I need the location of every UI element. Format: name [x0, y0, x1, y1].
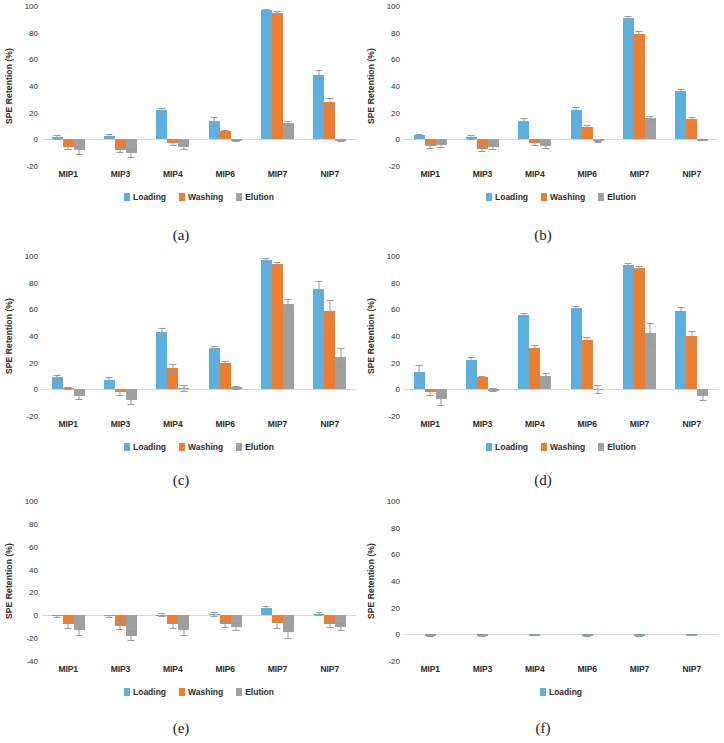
error-bar-cap [636, 270, 643, 271]
bar-slot [115, 256, 126, 416]
y-axis-tick-label: 20 [29, 108, 38, 117]
legend-item-washing[interactable]: Washing [179, 192, 223, 202]
bar-slot [209, 6, 220, 166]
error-bar-cap [274, 628, 281, 629]
bar-washing [324, 102, 335, 139]
y-axis-tick-label: 60 [29, 55, 38, 64]
legend-item-elution[interactable]: Elution [236, 192, 274, 202]
bar-group [613, 6, 665, 166]
bar-set [147, 501, 199, 661]
bar-slot [115, 501, 126, 661]
legend-item-elution[interactable]: Elution [236, 687, 274, 697]
error-bar-cap [326, 300, 333, 301]
error-bar-cap [158, 613, 165, 614]
y-axis-tick-label: 80 [29, 28, 38, 37]
error-bar-cap [128, 640, 135, 641]
bar-slot [634, 256, 645, 416]
error-bar-cap [222, 365, 229, 366]
y-axis-tick-label: -20 [26, 412, 38, 421]
error-bar-cap [573, 310, 580, 311]
bar-loading [209, 348, 220, 389]
error-bar-cap [625, 263, 632, 264]
bar-group [94, 256, 146, 416]
y-axis-label-text: SPE Retention (%) [4, 48, 14, 124]
bar-slot [425, 501, 436, 661]
x-axis-tick-label: MIP7 [613, 169, 665, 179]
error-bar-cap [117, 389, 124, 390]
x-axis-tick-label: NIP7 [304, 169, 356, 179]
error-bar-cap [285, 627, 292, 628]
legend-item-loading[interactable]: Loading [124, 442, 166, 452]
bar-slot [540, 256, 551, 416]
error-bar [340, 623, 341, 630]
legend-swatch-icon [179, 688, 185, 696]
legend-item-loading[interactable]: Loading [124, 687, 166, 697]
y-axis-tick-label: 80 [29, 278, 38, 287]
bar-elution [283, 304, 294, 389]
error-bar-cap [233, 630, 240, 631]
error-bar-cap [490, 391, 497, 392]
bar-slot [518, 6, 529, 166]
error-bar-cap [117, 152, 124, 153]
error-bar-cap [315, 281, 322, 282]
error-bar-cap [263, 606, 270, 607]
bar-set [509, 6, 561, 166]
error-bar [691, 331, 692, 342]
error-bar-cap [274, 262, 281, 263]
chart-legend: LoadingWashingElution [404, 192, 718, 202]
legend-item-elution[interactable]: Elution [236, 442, 274, 452]
bar-slot [52, 6, 63, 166]
error-bar-cap [233, 623, 240, 624]
legend-label: Washing [188, 192, 223, 202]
legend-item-loading[interactable]: Loading [486, 192, 528, 202]
error-bar-cap [584, 129, 591, 130]
error-bar-cap [106, 617, 113, 618]
panel-caption-a: (a) [0, 227, 362, 244]
legend-item-loading[interactable]: Loading [124, 192, 166, 202]
error-bar-cap [337, 141, 344, 142]
bar-slot [582, 501, 593, 661]
bar-slot [697, 6, 708, 166]
bar-slot [518, 256, 529, 416]
y-axis-tick-label: 20 [391, 603, 400, 612]
legend-item-washing[interactable]: Washing [179, 687, 223, 697]
error-bar-cap [106, 615, 113, 616]
y-axis-label-text: SPE Retention (%) [4, 298, 14, 374]
error-bar-cap [180, 391, 187, 392]
bar-set [251, 6, 303, 166]
bar-groups [404, 6, 718, 166]
bar-slot [261, 256, 272, 416]
bar-group [404, 6, 456, 166]
legend-swatch-icon [486, 443, 492, 451]
legend-item-washing[interactable]: Washing [179, 442, 223, 452]
bar-washing [272, 13, 283, 140]
bar-slot [313, 6, 324, 166]
bar-group [199, 256, 251, 416]
legend-item-elution[interactable]: Elution [598, 442, 636, 452]
bar-slot [126, 6, 137, 166]
legend-item-elution[interactable]: Elution [598, 192, 636, 202]
bar-slot [675, 256, 686, 416]
bar-group [456, 256, 508, 416]
legend-item-washing[interactable]: Washing [541, 192, 585, 202]
bar-slot [231, 256, 242, 416]
error-bar-cap [677, 93, 684, 94]
x-axis-tick-label: MIP4 [509, 419, 561, 429]
legend-item-washing[interactable]: Washing [541, 442, 585, 452]
error-bar-cap [337, 630, 344, 631]
error-bar [172, 364, 173, 372]
legend-label: Washing [188, 442, 223, 452]
error-bar-cap [337, 623, 344, 624]
bar-set [251, 256, 303, 416]
legend-item-loading[interactable]: Loading [486, 442, 528, 452]
error-bar-cap [285, 638, 292, 639]
error-bar-cap [315, 612, 322, 613]
y-axis-label-text: SPE Retention (%) [4, 543, 14, 619]
legend-swatch-icon [179, 193, 185, 201]
error-bar-cap [54, 135, 61, 136]
error-bar-cap [263, 611, 270, 612]
error-bar-cap [625, 20, 632, 21]
legend-item-loading[interactable]: Loading [540, 687, 582, 697]
error-bar-cap [647, 116, 654, 117]
bar-loading [623, 265, 634, 389]
